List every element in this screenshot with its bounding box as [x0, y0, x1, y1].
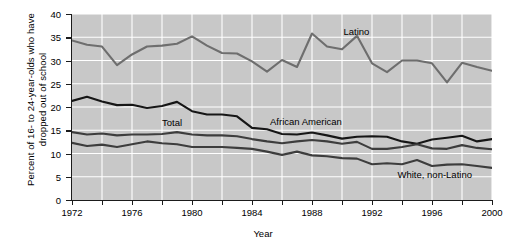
x-tick-mark	[162, 200, 163, 205]
series-label-white-non-latino: White, non-Latino	[398, 169, 472, 180]
series-label-latino: Latino	[344, 26, 370, 37]
x-tick-mark	[312, 200, 313, 205]
x-tick-mark	[102, 200, 103, 205]
y-tick-mark	[66, 107, 71, 108]
x-tick-label: 1996	[421, 207, 442, 218]
y-axis-title: Percent of 16- to 24-year-olds who have …	[25, 0, 48, 200]
x-tick-label: 1984	[241, 207, 262, 218]
y-tick-mark	[66, 154, 71, 155]
x-tick-mark	[432, 200, 433, 205]
x-tick-label: 1976	[121, 207, 142, 218]
y-tick-mark	[66, 130, 71, 131]
y-tick-mark	[66, 61, 71, 62]
y-tick-mark	[66, 177, 71, 178]
x-tick-mark	[402, 200, 403, 205]
x-tick-mark	[192, 200, 193, 205]
y-axis-line	[71, 14, 72, 201]
y-tick-mark	[66, 84, 71, 85]
y-tick-mark	[66, 14, 71, 15]
x-tick-mark	[72, 200, 73, 205]
x-tick-mark	[492, 200, 493, 205]
x-tick-label: 1980	[181, 207, 202, 218]
dropout-rate-line-chart: Percent of 16- to 24-year-olds who have …	[0, 0, 526, 252]
x-tick-mark	[252, 200, 253, 205]
y-tick-mark	[66, 200, 71, 201]
x-tick-mark	[282, 200, 283, 205]
x-tick-mark	[222, 200, 223, 205]
x-axis-title: Year	[0, 228, 526, 239]
series-label-african-american: African American	[270, 116, 342, 127]
y-tick-mark	[66, 37, 71, 38]
x-tick-label: 1972	[61, 207, 82, 218]
x-tick-mark	[372, 200, 373, 205]
x-tick-label: 1992	[361, 207, 382, 218]
x-tick-label: 2000	[481, 207, 502, 218]
x-tick-mark	[462, 200, 463, 205]
x-tick-mark	[342, 200, 343, 205]
series-label-total: Total	[162, 117, 182, 128]
x-tick-mark	[132, 200, 133, 205]
x-tick-label: 1988	[301, 207, 322, 218]
